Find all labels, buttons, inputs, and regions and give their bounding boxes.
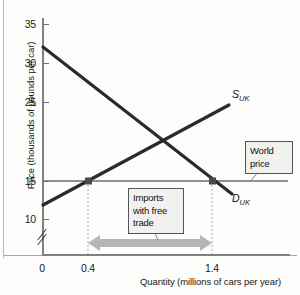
curve-label-suk-sub: UK <box>239 94 249 103</box>
annotation-imports-free-trade: Imports with free trade <box>128 188 184 234</box>
curve-label-duk-sub: UK <box>240 198 250 207</box>
chart-figure: 35 30 25 15 10 0 0.4 1.4 Price (thousand… <box>0 0 300 295</box>
curve-label-suk-text: S <box>232 88 239 100</box>
annotation-imports-line2: with free <box>133 205 179 218</box>
demand-curve-duk <box>43 47 232 194</box>
curve-label-duk-text: D <box>232 192 240 204</box>
curve-label-duk: DUK <box>232 192 250 207</box>
curve-label-suk: SUK <box>232 88 249 103</box>
imports-double-arrow <box>88 235 212 251</box>
annotation-world-price-line1: World <box>250 145 288 158</box>
annotation-world-price: World price <box>245 141 293 174</box>
intersection-marker-demand <box>209 178 216 185</box>
annotation-world-price-line2: price <box>250 158 288 171</box>
intersection-marker-supply <box>85 178 92 185</box>
annotation-imports-line1: Imports <box>133 192 179 205</box>
annotation-imports-line3: trade <box>133 217 179 230</box>
